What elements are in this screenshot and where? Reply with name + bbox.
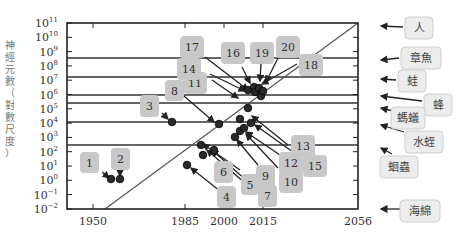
point-3	[168, 118, 176, 126]
svg-text:螞蟻: 螞蟻	[397, 112, 419, 125]
label-box-1: 1	[80, 152, 99, 173]
svg-text:9: 9	[262, 170, 269, 183]
svg-text:100: 100	[40, 173, 58, 187]
svg-text:章魚: 章魚	[410, 51, 432, 65]
svg-text:蜂: 蜂	[433, 98, 444, 112]
animal-label-sponge: 海綿	[400, 200, 440, 222]
point-20	[259, 87, 267, 95]
animal-label-roundworm: 蛔蟲	[380, 156, 418, 178]
animal-label-leech: 水蛭	[405, 131, 443, 153]
label-box-10: 10	[279, 171, 303, 193]
svg-text:1950: 1950	[79, 215, 107, 228]
svg-text:108: 108	[40, 59, 58, 73]
point-8	[215, 120, 223, 128]
svg-text:10−2: 10−2	[34, 202, 58, 216]
svg-text:105: 105	[40, 102, 58, 116]
svg-text:106: 106	[40, 88, 59, 102]
label-box-9: 9	[256, 165, 275, 187]
svg-text:10−1: 10−1	[34, 188, 58, 202]
animal-label-frog: 蛙	[398, 70, 426, 92]
svg-text:7: 7	[264, 190, 271, 203]
svg-text:4: 4	[223, 191, 230, 204]
svg-text:1010: 1010	[35, 30, 58, 44]
label-box-18: 18	[299, 54, 323, 76]
y-tick-labels: 1011 1010 109 108 107 106 105 104 103 10…	[34, 16, 59, 216]
svg-text:109: 109	[40, 45, 58, 59]
svg-text:102: 102	[40, 145, 58, 159]
animal-label-ant: 螞蟻	[391, 107, 425, 129]
svg-text:2056: 2056	[344, 215, 372, 228]
svg-text:103: 103	[40, 130, 58, 144]
label-box-3: 3	[140, 95, 159, 117]
animal-label-octopus: 章魚	[401, 47, 441, 69]
svg-text:1011: 1011	[35, 16, 58, 30]
label-box-19: 19	[250, 42, 274, 64]
point-4	[183, 161, 191, 169]
svg-text:1: 1	[86, 157, 93, 170]
svg-text:5: 5	[247, 179, 254, 192]
svg-text:15: 15	[308, 160, 322, 173]
label-box-2: 2	[111, 148, 130, 170]
svg-text:101: 101	[40, 159, 58, 173]
point-12	[240, 124, 248, 132]
point-7	[197, 141, 205, 149]
label-box-8: 8	[165, 80, 184, 101]
point-11	[236, 115, 244, 123]
svg-text:海綿: 海綿	[409, 204, 431, 218]
animal-label-human: 人	[405, 17, 433, 39]
x-tick-labels: 1950 1985 2000 2015 2056	[79, 215, 372, 228]
point-13	[244, 104, 252, 112]
svg-text:18: 18	[304, 59, 318, 72]
label-box-14: 14	[177, 58, 201, 80]
svg-text:人: 人	[414, 22, 425, 35]
label-box-16: 16	[221, 42, 245, 64]
svg-text:104: 104	[40, 116, 59, 130]
label-box-20: 20	[276, 36, 300, 58]
svg-text:2: 2	[117, 153, 124, 166]
point-2	[116, 175, 124, 183]
svg-text:107: 107	[40, 73, 58, 87]
svg-text:蛔蟲: 蛔蟲	[388, 161, 410, 174]
svg-text:水蛭: 水蛭	[413, 136, 435, 149]
svg-text:3: 3	[146, 100, 153, 113]
point-1	[107, 175, 115, 183]
svg-text:14: 14	[182, 63, 196, 76]
svg-text:2000: 2000	[210, 215, 238, 228]
svg-text:12: 12	[284, 157, 298, 170]
label-box-15: 15	[303, 155, 327, 177]
animal-label-bee: 蜂	[424, 94, 452, 116]
svg-text:2015: 2015	[249, 215, 277, 228]
label-box-7: 7	[258, 185, 277, 207]
svg-text:10: 10	[284, 176, 298, 189]
svg-text:17: 17	[185, 41, 199, 54]
neuron-count-chart: 1011 1010 109 108 107 106 105 104 103 10…	[0, 0, 465, 237]
svg-text:1985: 1985	[171, 215, 199, 228]
svg-text:蛙: 蛙	[407, 75, 418, 88]
label-box-13: 13	[291, 135, 315, 157]
label-box-6: 6	[214, 161, 233, 183]
animal-labels: 人 章魚 蛙 蜂 螞蟻 水蛭 蛔蟲 海綿	[380, 17, 452, 222]
svg-text:20: 20	[281, 41, 295, 54]
svg-text:13: 13	[296, 140, 310, 153]
svg-text:6: 6	[220, 166, 227, 179]
svg-text:8: 8	[171, 85, 178, 98]
point-6	[199, 151, 207, 159]
svg-text:16: 16	[226, 47, 240, 60]
label-box-17: 17	[180, 36, 204, 58]
svg-text:19: 19	[255, 47, 269, 60]
point-15	[247, 119, 255, 127]
point-5	[210, 146, 218, 154]
label-box-4: 4	[217, 186, 236, 208]
